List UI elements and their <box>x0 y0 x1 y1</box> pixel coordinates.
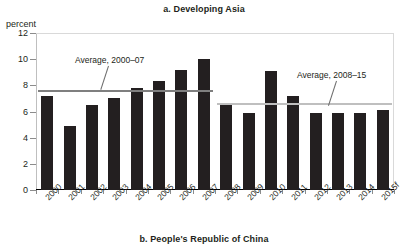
bar <box>310 113 322 190</box>
bar <box>175 70 187 190</box>
annotation-average-2008-15: Average, 2008–15 <box>297 70 366 80</box>
bar <box>86 105 98 190</box>
y-axis-tick-label: 2 <box>2 160 28 169</box>
bar <box>220 104 232 190</box>
x-axis-tick <box>36 190 37 194</box>
y-axis-tick-label: 12 <box>2 29 28 38</box>
y-axis-tick-label: 10 <box>2 55 28 64</box>
page-title: a. Developing Asia <box>0 4 408 14</box>
bar <box>108 98 120 190</box>
bar <box>287 96 299 190</box>
y-axis-tick-label: 6 <box>2 108 28 117</box>
bar <box>131 88 143 190</box>
bar <box>153 81 165 190</box>
y-axis-tick-label: 0 <box>2 186 28 195</box>
bar <box>332 113 344 190</box>
bar <box>64 126 76 190</box>
bar <box>377 110 389 190</box>
bar <box>354 113 366 190</box>
bar <box>198 59 210 190</box>
annotation-average-2000-07: Average, 2000–07 <box>75 55 144 65</box>
bar <box>265 71 277 190</box>
average-line-early <box>38 90 213 93</box>
bar <box>41 96 53 190</box>
y-axis-tick-label: 4 <box>2 134 28 143</box>
average-line-late <box>217 103 392 106</box>
bar <box>243 113 255 190</box>
panel-caption: b. People's Republic of China <box>0 234 408 244</box>
y-axis-tick-label: 8 <box>2 81 28 90</box>
